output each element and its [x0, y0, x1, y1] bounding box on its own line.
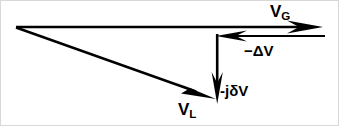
label-vl-subscript: L: [189, 108, 196, 120]
label-vl: VL: [178, 101, 197, 120]
vector-delta-v: [216, 31, 325, 42]
label-vg-main: V: [270, 2, 281, 21]
label-delta-v: −ΔV: [244, 43, 274, 58]
vector-vl-shaft: [16, 28, 196, 92]
label-jdelta-v: -jδV: [220, 83, 248, 98]
phasor-diagram: VG −ΔV -jδV VL: [0, 0, 339, 126]
vector-vg: [16, 21, 323, 34]
label-vl-main: V: [178, 100, 189, 119]
label-vg: VG: [270, 3, 291, 22]
label-vg-subscript: G: [281, 10, 290, 22]
vector-vl: [16, 28, 216, 100]
vector-vl-arrowhead: [172, 81, 216, 100]
